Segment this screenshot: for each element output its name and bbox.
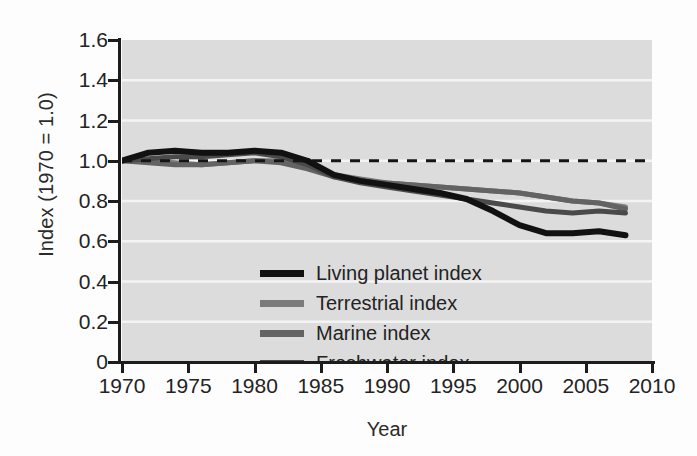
legend-item-label: Living planet index — [316, 262, 482, 285]
legend-swatch-icon — [260, 300, 304, 307]
y-tick-mark — [108, 79, 119, 82]
y-tick-label: 0.6 — [52, 229, 108, 253]
legend-swatch-icon — [260, 270, 304, 277]
y-tick-mark — [108, 120, 119, 123]
x-tick-mark — [254, 362, 257, 373]
y-tick-mark — [108, 200, 119, 203]
x-tick-label: 1975 — [153, 374, 223, 398]
y-tick-label: 1.0 — [52, 149, 108, 173]
x-tick-label: 1985 — [286, 374, 356, 398]
y-tick-mark — [108, 39, 119, 42]
legend-swatch-icon — [260, 330, 304, 337]
x-tick-mark — [651, 362, 654, 373]
x-tick-mark — [121, 362, 124, 373]
x-tick-label: 2010 — [617, 374, 687, 398]
y-tick-mark — [108, 321, 119, 324]
y-tick-label: 1.4 — [52, 68, 108, 92]
y-tick-mark — [108, 361, 119, 364]
x-tick-label: 1990 — [352, 374, 422, 398]
y-tick-label: 1.2 — [52, 109, 108, 133]
legend-item[interactable]: Marine index — [260, 318, 490, 348]
x-tick-label: 2000 — [485, 374, 555, 398]
x-tick-mark — [585, 362, 588, 373]
plot-area: Living planet indexTerrestrial indexMari… — [122, 40, 652, 362]
y-tick-label: 0.2 — [52, 310, 108, 334]
y-tick-label: 0.4 — [52, 270, 108, 294]
x-tick-mark — [452, 362, 455, 373]
legend-item[interactable]: Freshwater index — [260, 348, 490, 362]
x-tick-label: 2005 — [551, 374, 621, 398]
x-tick-mark — [386, 362, 389, 373]
legend-item-label: Terrestrial index — [316, 292, 457, 315]
y-tick-mark — [108, 240, 119, 243]
y-tick-label: 1.6 — [52, 28, 108, 52]
chart-container: Index (1970 = 1.0) 00.20.40.60.81.01.21.… — [0, 0, 697, 456]
legend-item[interactable]: Living planet index — [260, 258, 490, 288]
x-tick-mark — [320, 362, 323, 373]
x-tick-label: 1980 — [220, 374, 290, 398]
x-tick-mark — [519, 362, 522, 373]
legend: Living planet indexTerrestrial indexMari… — [260, 258, 490, 362]
y-tick-label: 0.8 — [52, 189, 108, 213]
legend-item-label: Marine index — [316, 322, 431, 345]
y-tick-label: 0 — [52, 350, 108, 374]
x-tick-mark — [187, 362, 190, 373]
x-tick-label: 1970 — [87, 374, 157, 398]
y-tick-mark — [108, 281, 119, 284]
x-axis-title: Year — [122, 418, 652, 441]
x-tick-label: 1995 — [418, 374, 488, 398]
series-lines — [122, 151, 626, 236]
legend-item[interactable]: Terrestrial index — [260, 288, 490, 318]
y-tick-mark — [108, 160, 119, 163]
